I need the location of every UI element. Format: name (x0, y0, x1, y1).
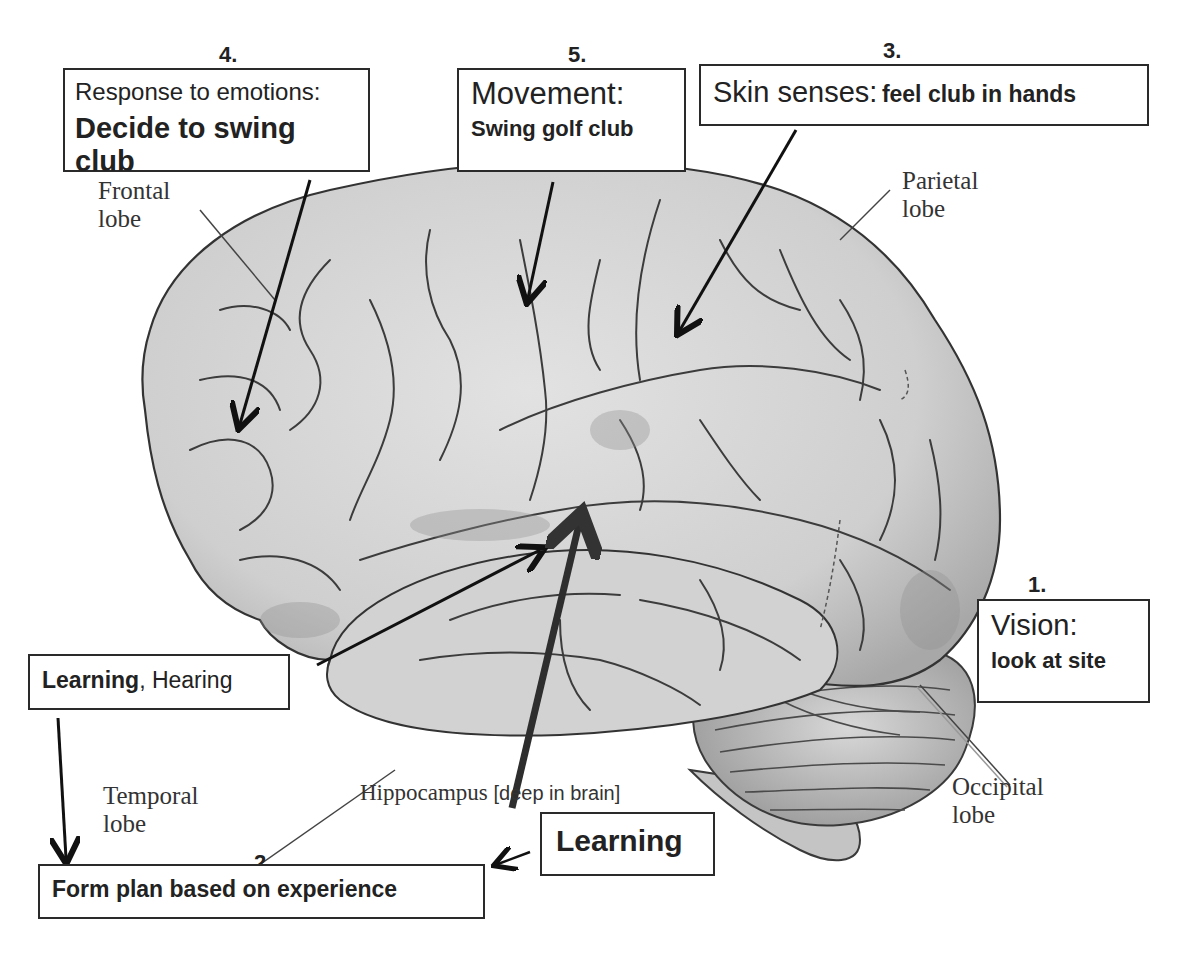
step-2-box: Form plan based on experience (38, 864, 485, 919)
hippocampus-label: Hippocampus [deep in brain] (360, 780, 620, 806)
step-1-number: 1. (1028, 572, 1046, 598)
step-4-box: Response to emotions: Decide to swing cl… (63, 68, 370, 172)
parietal-lobe-line1: Parietal (902, 167, 978, 195)
step-1-box: Vision: look at site (977, 599, 1150, 703)
step-3-number: 3. (883, 38, 901, 64)
step-3-title: Skin senses: (713, 76, 877, 108)
frontal-lobe-line2: lobe (98, 205, 170, 233)
learning-box: Learning (540, 812, 715, 876)
brain-diagram: 4. Response to emotions: Decide to swing… (0, 0, 1181, 959)
learning-hearing-bold: Learning (42, 667, 139, 693)
parietal-lobe-line2: lobe (902, 195, 978, 223)
parietal-lobe-label: Parietal lobe (902, 167, 978, 223)
step-5-title: Movement: (471, 76, 672, 112)
step-1-title: Vision: (991, 609, 1136, 642)
temporal-lobe-line1: Temporal (103, 782, 198, 810)
occipital-lobe-line2: lobe (952, 801, 1044, 829)
occipital-lobe-line1: Occipital (952, 773, 1044, 801)
step-5-action: Swing golf club (471, 116, 672, 141)
frontal-lobe-line1: Frontal (98, 177, 170, 205)
temporal-lobe-label: Temporal lobe (103, 782, 198, 838)
step-4-title: Response to emotions: (75, 78, 358, 106)
frontal-lobe-label: Frontal lobe (98, 177, 170, 233)
hippocampus-note: [deep in brain] (494, 782, 621, 804)
step-5-box: Movement: Swing golf club (457, 68, 686, 172)
step-4-action: Decide to swing club (75, 112, 358, 179)
learning-hearing-box: Learning, Hearing (28, 654, 290, 710)
step-2-label: Form plan based on experience (52, 876, 471, 902)
learning-hearing-rest: , Hearing (139, 667, 232, 693)
hippocampus-name: Hippocampus (360, 780, 488, 805)
step-5-number: 5. (568, 42, 586, 68)
step-3-box: Skin senses: feel club in hands (699, 64, 1149, 126)
step-3-action: feel club in hands (882, 81, 1076, 107)
temporal-lobe-line2: lobe (103, 810, 198, 838)
occipital-lobe-label: Occipital lobe (952, 773, 1044, 829)
step-4-number: 4. (219, 42, 237, 68)
learning-label: Learning (556, 824, 699, 859)
step-1-action: look at site (991, 648, 1136, 673)
